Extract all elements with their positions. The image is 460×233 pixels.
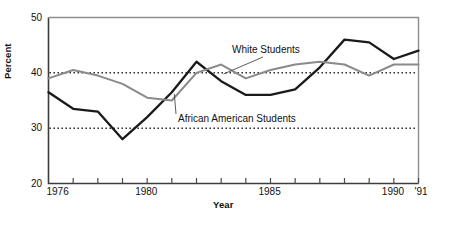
chart-figure: Percent Year 50 40 30 20 1976 1980 1985 … xyxy=(0,0,460,233)
x-axis-ticks xyxy=(73,178,418,184)
series-label-african-american-students: African American Students xyxy=(178,113,296,124)
y-axis-title: Percent xyxy=(2,43,13,79)
x-tick-label-1980: 1980 xyxy=(135,186,157,197)
y-tick-label-40: 40 xyxy=(22,67,42,78)
y-tick-label-20: 20 xyxy=(22,178,42,189)
y-tick-label-50: 50 xyxy=(22,12,42,23)
series-label-white-students: White Students xyxy=(232,44,300,55)
x-tick-label-1991: '91 xyxy=(415,186,428,197)
x-tick-label-1976: 1976 xyxy=(47,186,69,197)
x-axis-title: Year xyxy=(213,199,233,210)
y-tick-label-30: 30 xyxy=(22,122,42,133)
x-tick-label-1990: 1990 xyxy=(382,186,404,197)
x-tick-label-1985: 1985 xyxy=(259,186,281,197)
